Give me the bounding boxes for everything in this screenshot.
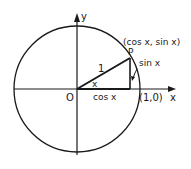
- cos-label: cos x: [93, 92, 117, 102]
- unit-point-label: (1,0): [139, 92, 163, 103]
- point-p-label: P: [128, 47, 134, 57]
- x-axis-label: x: [170, 92, 176, 103]
- point-coords-label: (cos x, sin x): [123, 37, 180, 47]
- y-axis-label: y: [81, 11, 87, 22]
- angle-label: x: [92, 79, 98, 89]
- y-axis-arrow-icon: [74, 13, 80, 22]
- sin-label: sin x: [139, 58, 161, 68]
- origin-label: O: [66, 92, 74, 103]
- unit-circle-diagram: y x O P (cos x, sin x) 1 x cos x sin x (…: [0, 0, 191, 169]
- sin-pointer-arrow-icon: [131, 76, 135, 81]
- radius-label: 1: [98, 63, 104, 74]
